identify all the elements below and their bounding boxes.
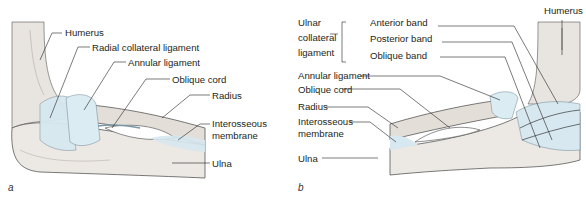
label-ulna: Ulna — [298, 153, 318, 164]
label-interosseous-membrane-line1: Interosseous — [298, 116, 353, 127]
label-radius: Radius — [298, 101, 328, 112]
label-radius: Radius — [212, 90, 242, 101]
panel-label-b: b — [298, 182, 304, 193]
label-oblique-cord: Oblique cord — [172, 74, 226, 85]
label-ulna: Ulna — [212, 158, 232, 169]
label-humerus: Humerus — [544, 5, 583, 16]
label-interosseous-membrane-line2: membrane — [298, 128, 344, 139]
label-posterior-band: Posterior band — [370, 33, 432, 44]
label-radial-collateral-ligament: Radial collateral ligament — [92, 42, 199, 53]
label-annular-ligament: Annular ligament — [128, 57, 200, 68]
label-ucl-line2: collateral — [298, 32, 336, 43]
label-ucl-line3: ligament — [298, 47, 334, 58]
label-oblique-band: Oblique band — [370, 50, 427, 61]
label-annular-ligament: Annular ligament — [298, 70, 370, 81]
label-humerus: Humerus — [65, 27, 104, 38]
label-interosseous-membrane-line2: membrane — [212, 130, 258, 141]
label-ucl-line1: Ulnar — [298, 17, 321, 28]
label-anterior-band: Anterior band — [370, 17, 428, 28]
panel-a-lateral-view: Humerus Radial collateral ligament Annul… — [0, 0, 290, 203]
label-oblique-cord: Oblique cord — [298, 84, 352, 95]
label-interosseous-membrane-line1: Interosseous — [212, 118, 267, 129]
panel-label-a: a — [8, 182, 14, 193]
panel-b-medial-view: Humerus Ulnar collateral ligament Anteri… — [290, 0, 586, 203]
elbow-lateral-illustration — [0, 0, 290, 203]
elbow-medial-illustration — [290, 0, 586, 203]
